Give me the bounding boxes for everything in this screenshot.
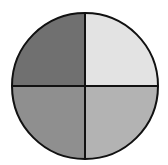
quartered-circle [0, 0, 168, 165]
diagram-canvas [0, 0, 168, 165]
quadrant-bottom-right [85, 86, 168, 165]
quadrant-top-right [85, 0, 168, 86]
